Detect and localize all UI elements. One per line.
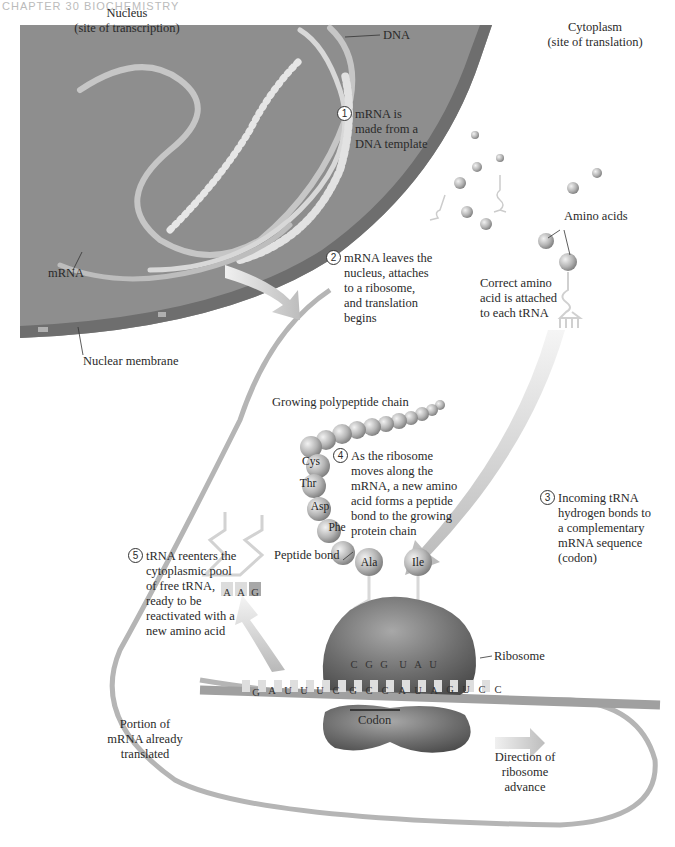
text-line: ready to be	[128, 594, 236, 609]
codon-label: Codon	[358, 713, 391, 728]
mrna-base: G	[252, 687, 260, 698]
step-1: 1mRNA is made from a DNA template	[337, 106, 428, 152]
text-line: Correct amino	[480, 276, 557, 291]
text-line: and translation	[326, 296, 432, 311]
step-2: 2mRNA leaves the nucleus, attaches to a …	[326, 250, 432, 326]
mrna-base: C	[381, 685, 388, 696]
mrna-base: G	[446, 684, 454, 695]
amino-acid-ile: Ile	[412, 556, 424, 568]
step-number-badge: 5	[128, 548, 143, 563]
text-line: As the ribosome	[351, 449, 433, 463]
step-number-badge: 3	[540, 490, 555, 505]
mrna-base: C	[365, 685, 372, 696]
text-line: bond to the growing	[333, 509, 457, 524]
mrna-base: A	[268, 685, 276, 696]
text-line: reactivated with a	[128, 609, 236, 624]
step-number-badge: 1	[337, 106, 352, 121]
step-3: 3Incoming tRNA hydrogen bonds to a compl…	[540, 490, 651, 566]
step-number-badge: 4	[333, 448, 348, 463]
amino-acids-label: Amino acids	[564, 209, 628, 224]
text-line: to a ribosome,	[326, 281, 432, 296]
text-line: new amino acid	[128, 624, 236, 639]
text-line: to each tRNA	[480, 306, 557, 321]
text-line: (codon)	[540, 551, 651, 566]
mrna-base: C	[332, 685, 339, 696]
cytoplasm-title: Cytoplasm	[540, 20, 650, 35]
text-line: mRNA sequence	[540, 536, 651, 551]
text-line: Direction of	[480, 750, 570, 765]
text-line: tRNA reenters the	[146, 549, 236, 563]
anticodon-base: G	[365, 659, 373, 670]
text-line: acid is attached	[480, 291, 557, 306]
mrna-base: C	[478, 684, 485, 695]
free-amino-acids	[454, 131, 602, 271]
amino-acid-asp: Asp	[311, 500, 330, 512]
text-line: protein chain	[333, 524, 457, 539]
text-line: translated	[100, 747, 190, 762]
ribosome-label: Ribosome	[494, 649, 545, 664]
mrna-base: U	[284, 685, 292, 696]
cytoplasm-subtitle: (site of translation)	[540, 35, 650, 50]
dna-label: DNA	[383, 28, 410, 43]
growing-chain-label: Growing polypeptide chain	[272, 395, 409, 410]
mrna-base: A	[430, 685, 438, 696]
text-line: hydrogen bonds to	[540, 506, 651, 521]
peptide-bond-label: Peptide bond	[274, 548, 340, 563]
text-line: ribosome	[480, 765, 570, 780]
text-line: Portion of	[100, 717, 190, 732]
text-line: Incoming tRNA	[558, 491, 639, 505]
mrna-label: mRNA	[48, 266, 84, 281]
text-line: of free tRNA,	[128, 579, 236, 594]
text-line: mRNA already	[100, 732, 190, 747]
direction-label: Direction of ribosome advance	[480, 750, 570, 795]
mrna-base: G	[349, 685, 357, 696]
text-line: mRNA leaves the	[344, 251, 432, 265]
text-line: cytoplasmic pool	[128, 564, 236, 579]
amino-acid-thr: Thr	[300, 477, 317, 489]
mrna-base: U	[462, 684, 470, 695]
anticodon-base: A	[237, 587, 245, 598]
nucleus-title: Nucleus	[52, 6, 202, 21]
text-line: a complementary	[540, 521, 651, 536]
ribosome-small-subunit	[323, 705, 471, 753]
text-line: DNA template	[337, 137, 428, 152]
anticodon-base: U	[429, 659, 437, 670]
text-line: mRNA, a new amino	[333, 479, 457, 494]
text-line: moves along the	[333, 464, 457, 479]
cytoplasm-label: Cytoplasm (site of translation)	[540, 20, 650, 50]
text-line: advance	[480, 780, 570, 795]
step-4: 4As the ribosome moves along the mRNA, a…	[333, 448, 457, 539]
text-line: begins	[326, 311, 432, 326]
nucleus-label: Nucleus (site of transcription)	[52, 6, 202, 36]
step-5: 5tRNA reenters the cytoplasmic pool of f…	[128, 548, 236, 639]
nuclear-membrane-label: Nuclear membrane	[83, 354, 178, 369]
amino-acid-cys: Cys	[302, 455, 320, 467]
mrna-base: U	[414, 685, 422, 696]
portion-translated-label: Portion of mRNA already translated	[100, 717, 190, 762]
text-line: nucleus, attaches	[326, 266, 432, 281]
text-line: acid forms a peptide	[333, 494, 457, 509]
mrna-base: A	[398, 685, 406, 696]
amino-acid-ala: Ala	[361, 556, 378, 568]
anticodon-base: A	[414, 659, 422, 670]
nucleus-subtitle: (site of transcription)	[52, 21, 202, 36]
text-line: made from a	[337, 122, 428, 137]
anticodon-base: A	[223, 587, 231, 598]
mrna-base: U	[316, 685, 324, 696]
anticodon-base: U	[399, 659, 407, 670]
mrna-base: C	[494, 684, 501, 695]
amino-acid-phe: Phe	[328, 521, 345, 533]
anticodon-base: C	[350, 659, 357, 670]
correct-amino-acid-label: Correct amino acid is attached to each t…	[480, 276, 557, 321]
arrow-trna-reenter	[235, 595, 285, 672]
anticodon-base: G	[251, 587, 259, 598]
text-line: mRNA is	[355, 107, 402, 121]
step-number-badge: 2	[326, 250, 341, 265]
mrna-base: U	[300, 685, 308, 696]
anticodon-base: G	[380, 659, 388, 670]
